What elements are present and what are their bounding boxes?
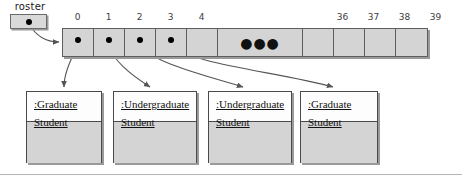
object-box-1-name-line2: Student <box>121 116 155 129</box>
array-index-label-37: 37 <box>358 12 389 23</box>
array-index-label-39: 39 <box>420 12 451 23</box>
filled-dot-icon <box>168 37 174 43</box>
array-cell-3[interactable] <box>156 29 187 56</box>
array-cell-38[interactable] <box>365 29 396 56</box>
array-cell-37[interactable] <box>334 29 365 56</box>
roster-pointer-box[interactable] <box>10 14 47 29</box>
roster-array: ●●● <box>62 28 428 57</box>
array-cell-0[interactable] <box>63 29 94 56</box>
object-box-2-header: :Undergraduate Student <box>209 92 291 122</box>
object-box-2[interactable]: :Undergraduate Student <box>208 91 292 163</box>
ellipsis-icon: ●●● <box>218 36 302 50</box>
filled-dot-icon <box>106 37 112 43</box>
filled-dot-icon <box>137 37 143 43</box>
array-index-label-38: 38 <box>389 12 420 23</box>
array-index-label-1: 1 <box>93 12 124 23</box>
object-box-3-header: :Graduate Student <box>301 92 377 122</box>
object-box-3-name-line2: Student <box>308 116 342 129</box>
object-box-3[interactable]: :Graduate Student <box>300 91 378 163</box>
filled-dot-icon <box>26 19 32 25</box>
array-cell-gap: ●●● <box>218 29 303 56</box>
array-index-label-4: 4 <box>186 12 217 23</box>
object-box-2-name-line1: :Undergraduate <box>216 98 284 111</box>
object-box-0-name-line1: :Graduate <box>34 98 77 111</box>
array-index-label-0: 0 <box>62 12 93 23</box>
object-box-0-name-line2: Student <box>34 116 68 129</box>
roster-label: roster <box>10 1 50 13</box>
array-cell-36[interactable] <box>303 29 334 56</box>
object-box-2-name-line2: Student <box>216 116 250 129</box>
object-box-1[interactable]: :Undergraduate Student <box>113 91 197 163</box>
array-cell-1[interactable] <box>94 29 125 56</box>
object-box-0[interactable]: :Graduate Student <box>26 91 102 163</box>
array-cell-2[interactable] <box>125 29 156 56</box>
array-index-label-36: 36 <box>327 12 358 23</box>
object-box-0-header: :Graduate Student <box>27 92 101 122</box>
array-cell-4[interactable] <box>187 29 218 56</box>
array-index-label-3: 3 <box>155 12 186 23</box>
object-box-3-name-line1: :Graduate <box>308 98 351 111</box>
page-divider-rule <box>0 174 462 175</box>
array-index-label-2: 2 <box>124 12 155 23</box>
filled-dot-icon <box>75 37 81 43</box>
array-cell-39[interactable] <box>396 29 427 56</box>
diagram-canvas: roster 0 1 2 3 4 36 37 38 39 ●●● <box>0 0 462 183</box>
object-box-1-header: :Undergraduate Student <box>114 92 196 122</box>
object-box-1-name-line1: :Undergraduate <box>121 98 189 111</box>
